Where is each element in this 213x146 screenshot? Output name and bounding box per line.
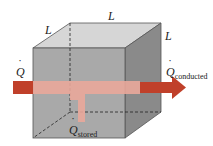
q-conducted-symbol: Q [166, 66, 175, 78]
heat-out-arrow-shaft [140, 82, 174, 93]
q-in-symbol: Q [16, 66, 25, 78]
edge-label-top: L [108, 10, 115, 22]
edge-label-right: L [165, 30, 172, 42]
edge-label-left: L [45, 24, 52, 36]
q-conducted-subscript: conducted [175, 72, 208, 81]
q-stored-symbol: Q [69, 124, 78, 136]
q-in-label: Q [16, 66, 25, 78]
heat-in-arrow [13, 81, 33, 94]
q-stored-subscript: stored [78, 130, 98, 139]
heat-internal-band [33, 81, 140, 94]
q-stored-label: Qstored [69, 124, 97, 139]
q-conducted-label: Qconducted [166, 66, 208, 81]
